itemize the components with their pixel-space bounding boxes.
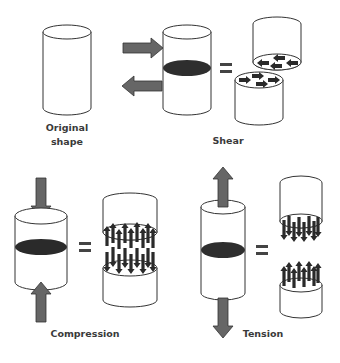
shear-force-arrow-right bbox=[123, 38, 163, 58]
shear-cross-section bbox=[163, 60, 211, 76]
shear-top-half bbox=[253, 17, 301, 70]
compression-cross-section bbox=[15, 239, 67, 255]
shear-bottom-half bbox=[235, 72, 283, 125]
shear-force-arrow-left bbox=[122, 76, 162, 96]
compression-equals-sign bbox=[79, 242, 91, 252]
shear-cylinder bbox=[163, 25, 211, 115]
original-label-line1: Original bbox=[37, 121, 97, 135]
compression-bottom-half bbox=[103, 247, 157, 307]
original-cylinder bbox=[43, 25, 91, 115]
shear-label: Shear bbox=[203, 134, 253, 148]
tension-force-arrow-down bbox=[213, 298, 233, 338]
stress-types-diagram: Original shape Shear Compression Tension bbox=[0, 0, 340, 363]
tension-bottom-half bbox=[280, 261, 322, 318]
tension-cross-section bbox=[201, 242, 245, 258]
tension-equals-sign bbox=[256, 245, 268, 255]
original-shape-label: Original shape bbox=[37, 121, 97, 149]
tension-cylinder bbox=[201, 200, 245, 300]
original-label-line2: shape bbox=[37, 135, 97, 149]
tension-label: Tension bbox=[240, 327, 286, 341]
shear-equals-sign bbox=[220, 63, 232, 73]
compression-label: Compression bbox=[50, 327, 120, 341]
compression-cylinder bbox=[15, 208, 67, 290]
compression-top-half bbox=[103, 193, 157, 249]
tension-top-half bbox=[280, 176, 322, 242]
